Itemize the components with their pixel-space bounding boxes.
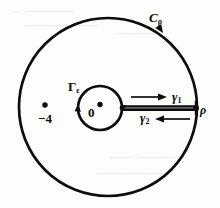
gamma2-label-sub: 2 (145, 117, 149, 126)
contour-diagram-canvas (0, 0, 220, 208)
inner-contour-label: Γε (68, 80, 80, 95)
rho-radius-label: ρ (200, 104, 206, 116)
pole-point-dot (42, 102, 47, 107)
inner-contour-label-sub: ε (76, 86, 79, 95)
origin-point-dot (97, 102, 102, 107)
gamma1-direction-arrow-icon (131, 93, 167, 100)
gamma1-label: γ1 (172, 90, 181, 105)
outer-contour-label: Cρ (149, 11, 162, 26)
gamma2-label: γ2 (140, 111, 149, 126)
gamma1-label-sub: 1 (177, 96, 181, 105)
rho-point-dot (193, 105, 199, 111)
pole-label: −4 (38, 112, 52, 125)
contour-diagram-figure: — ———— ———— —— ———— —— ——— —————— (0, 0, 220, 208)
outer-contour-label-sub: ρ (158, 17, 162, 26)
outer-contour-label-base: C (149, 10, 158, 25)
epsilon-radius-label: ε (122, 102, 126, 112)
origin-label: 0 (88, 106, 95, 119)
gamma2-direction-arrow-icon (155, 115, 190, 122)
inner-contour-circle (78, 86, 122, 130)
inner-contour-arrowhead-icon (74, 104, 81, 112)
